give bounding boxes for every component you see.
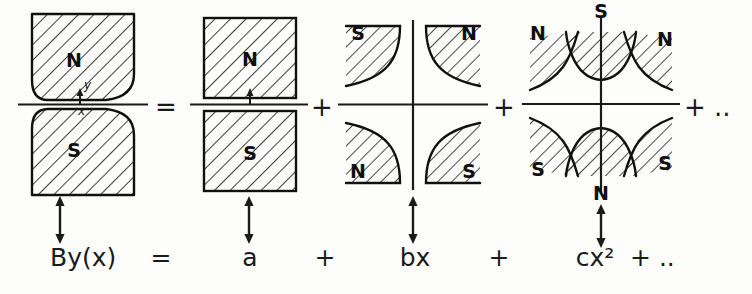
connector-arrow-sextupole [586, 204, 616, 248]
pole-south-shape [18, 105, 148, 197]
equation-term-b: bx [392, 245, 438, 270]
operator-plus-ellipsis: + .. [684, 94, 742, 120]
equation-term-c: cx² [564, 245, 626, 270]
operator-equals: = [150, 94, 182, 120]
equation-equals: = [146, 245, 176, 270]
diagram-dipole: N S [190, 12, 308, 197]
pole-label-south: S [243, 142, 257, 164]
pole-label-bottom-left: N [350, 160, 366, 182]
equation-plus-1: + [310, 245, 340, 270]
figure-canvas: N S y x = [0, 0, 752, 294]
pole-label-bottom: N [593, 182, 609, 204]
equation-lhs: By(x) [50, 245, 160, 270]
pole-label-north: N [66, 49, 82, 71]
pole-north-shape [18, 12, 148, 104]
pole-label-upper-right: N [657, 28, 673, 50]
pole-label-top-right: N [461, 22, 477, 44]
axis-label-y: y [84, 78, 91, 92]
pole-label-south: S [67, 139, 81, 161]
operator-plus-2: + [488, 94, 520, 120]
pole-label-upper-left: N [530, 22, 546, 44]
diagram-quadrupole: S N N S [338, 12, 488, 197]
equation-term-a: a [230, 245, 270, 270]
equation-tail: + .. [630, 245, 700, 270]
pole-label-lower-left: S [531, 158, 545, 180]
connector-arrow-dipole [234, 196, 264, 244]
connector-arrow-real-magnet [45, 196, 75, 244]
axis-label-x: x [78, 104, 85, 118]
pole-label-bottom-right: S [462, 160, 476, 182]
diagram-sextupole: S N N S S N [522, 4, 680, 204]
pole-label-north: N [242, 48, 258, 70]
pole-label-lower-right: S [658, 152, 672, 174]
pole-label-top-left: S [351, 22, 365, 44]
operator-plus-1: + [306, 94, 338, 120]
equation-plus-2: + [484, 245, 514, 270]
connector-arrow-quadrupole [398, 196, 428, 244]
pole-label-top: S [594, 0, 608, 22]
